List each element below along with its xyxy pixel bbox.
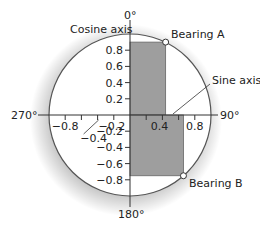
- compass-label-south: 180°: [118, 208, 145, 221]
- cosine-tick-label: 0.4: [106, 77, 124, 90]
- compass-label-east: 90°: [220, 109, 240, 122]
- cosine-tick-label: −0.6: [96, 158, 123, 171]
- compass-label-north: 0°: [124, 9, 137, 22]
- cosine-axis-label: Cosine axis: [70, 23, 133, 36]
- bearing-b-label: Bearing B: [189, 177, 243, 190]
- sine-tick-label: −0.2: [98, 120, 125, 133]
- cosine-tick-label: 0.6: [106, 60, 124, 73]
- sine-tick-label: −0.8: [52, 120, 79, 133]
- cosine-tick-label: −0.8: [96, 174, 123, 187]
- unit-circle-diagram: 0.80.60.40.2−0.2−0.4−0.6−0.8−0.8−0.4−0.2…: [0, 0, 260, 227]
- sine-tick-label: 0.8: [186, 120, 204, 133]
- compass-label-west: 270°: [11, 109, 38, 122]
- bearing-b-point: [180, 173, 186, 179]
- bearing-a-point: [163, 39, 169, 45]
- bearing-a-label: Bearing A: [171, 28, 225, 41]
- sine-tick-label: 0.4: [151, 120, 169, 133]
- cosine-tick-label: 0.2: [106, 93, 124, 106]
- sine-tick-label: −0.4: [80, 132, 107, 145]
- cosine-tick-label: 0.8: [106, 44, 124, 57]
- sine-axis-label: Sine axis: [212, 74, 260, 87]
- bearing-a-shaded-rect: [130, 42, 166, 115]
- diagram-canvas: 0.80.60.40.2−0.2−0.4−0.6−0.8−0.8−0.4−0.2…: [0, 0, 260, 227]
